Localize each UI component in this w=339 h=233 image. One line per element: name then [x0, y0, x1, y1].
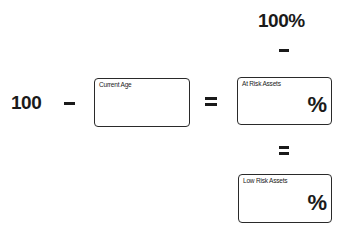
total-percent-text: 100% [258, 11, 305, 30]
at-risk-assets-label: At Risk Assets [242, 80, 281, 87]
at-risk-assets-percent-sign: % [307, 94, 327, 116]
low-risk-assets-box[interactable]: Low Risk Assets % [238, 174, 332, 223]
current-age-label: Current Age [99, 81, 132, 88]
constant-100-text: 100 [11, 93, 41, 112]
low-risk-assets-percent-sign: % [307, 192, 327, 214]
low-risk-assets-label: Low Risk Assets [243, 177, 287, 184]
at-risk-assets-box[interactable]: At Risk Assets % [237, 77, 332, 125]
minus-operator [64, 102, 75, 105]
minus-operator-vertical [279, 49, 289, 52]
current-age-input-box[interactable]: Current Age [94, 78, 190, 127]
